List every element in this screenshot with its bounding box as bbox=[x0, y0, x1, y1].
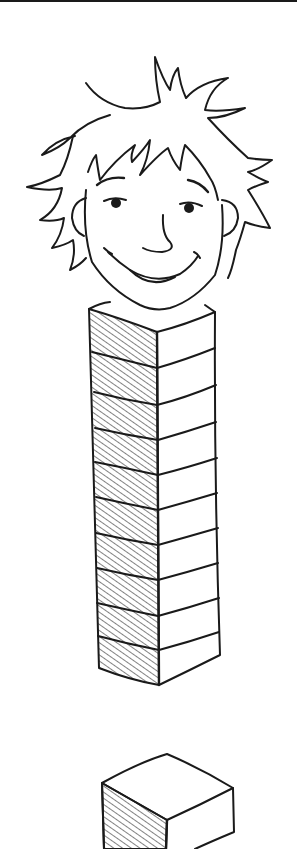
nose-icon bbox=[143, 215, 172, 252]
left-ear bbox=[72, 198, 86, 236]
block-stack bbox=[89, 302, 220, 685]
hair-icon bbox=[27, 57, 272, 278]
single-block bbox=[102, 754, 234, 849]
illustration bbox=[0, 0, 297, 849]
face-icon bbox=[72, 178, 238, 310]
mouth-icon bbox=[108, 252, 198, 279]
right-ear bbox=[222, 200, 238, 236]
left-eye-icon bbox=[111, 198, 121, 208]
right-eye-icon bbox=[184, 203, 194, 213]
